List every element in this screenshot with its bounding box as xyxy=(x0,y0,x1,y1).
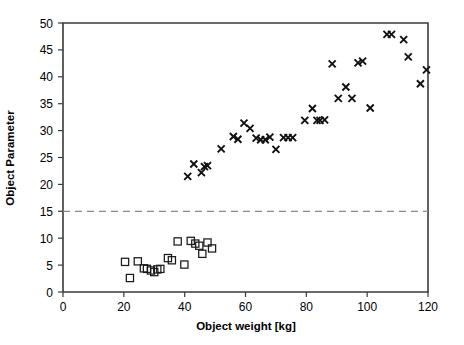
data-point-square xyxy=(126,274,133,281)
data-point-cross xyxy=(329,60,336,67)
data-point-square xyxy=(187,237,194,244)
data-point-cross xyxy=(184,173,191,180)
data-point-cross xyxy=(218,145,225,152)
y-tick-label: 20 xyxy=(40,178,54,192)
y-axis-title: Object Parameter xyxy=(4,110,16,206)
y-tick-label: 15 xyxy=(40,205,54,219)
data-point-cross xyxy=(417,80,424,87)
data-point-square xyxy=(121,258,128,265)
series-2-x xyxy=(184,31,430,180)
y-tick-label: 45 xyxy=(40,43,54,57)
data-point-square xyxy=(134,258,141,265)
y-tick-label: 10 xyxy=(40,232,54,246)
data-point-cross xyxy=(247,125,254,132)
x-tick-label: 100 xyxy=(357,300,377,314)
chart-canvas: 020406080100120 05101520253035404550 Obj… xyxy=(0,0,464,345)
data-series-layer xyxy=(121,31,430,282)
data-point-cross xyxy=(348,95,355,102)
x-tick-label: 60 xyxy=(239,300,253,314)
y-tick-label: 40 xyxy=(40,70,54,84)
x-tick-label: 20 xyxy=(117,300,131,314)
x-tick-label: 40 xyxy=(178,300,192,314)
data-point-cross xyxy=(190,160,197,167)
data-point-cross xyxy=(272,146,279,153)
y-tick-label: 50 xyxy=(40,17,54,31)
data-point-cross xyxy=(367,105,374,112)
y-tick-label: 5 xyxy=(46,259,53,273)
data-point-cross xyxy=(342,84,349,91)
data-point-cross xyxy=(400,36,407,43)
y-tick-label: 0 xyxy=(46,286,53,300)
data-point-cross xyxy=(405,53,412,60)
data-point-square xyxy=(199,250,206,257)
series-1-square xyxy=(121,237,215,281)
x-axis-tick-labels: 020406080100120 xyxy=(60,300,439,314)
data-point-cross xyxy=(289,134,296,141)
data-point-cross xyxy=(388,31,395,38)
y-tick-label: 35 xyxy=(40,97,54,111)
x-tick-label: 0 xyxy=(60,300,67,314)
plot-frame xyxy=(63,23,428,292)
y-tick-label: 25 xyxy=(40,151,54,165)
scatter-chart: 020406080100120 05101520253035404550 Obj… xyxy=(0,0,464,345)
data-point-cross xyxy=(301,117,308,124)
data-point-cross xyxy=(321,116,328,123)
y-axis-tick-labels: 05101520253035404550 xyxy=(40,17,54,300)
x-tick-label: 120 xyxy=(418,300,438,314)
data-point-square xyxy=(181,261,188,268)
x-tick-label: 80 xyxy=(300,300,314,314)
data-point-cross xyxy=(423,66,430,73)
x-axis-title: Object weight [kg] xyxy=(196,320,296,332)
data-point-cross xyxy=(309,105,316,112)
data-point-square xyxy=(174,238,181,245)
y-tick-label: 30 xyxy=(40,124,54,138)
data-point-cross xyxy=(335,95,342,102)
